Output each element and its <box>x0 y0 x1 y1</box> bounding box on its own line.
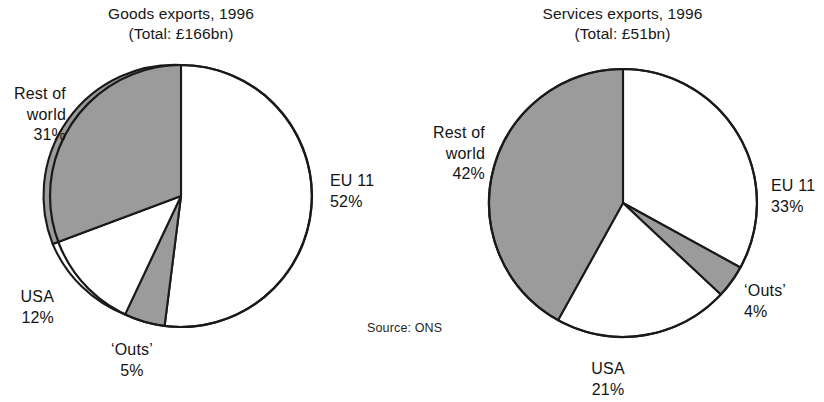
pie-label-goods-rest-of-world-line1: Rest of <box>0 84 66 105</box>
pie-label-services-outs: ‘Outs’ 4% <box>744 281 786 322</box>
pie-label-goods-usa-name: USA <box>0 287 54 308</box>
pie-label-services-rest-of-world-value: 42% <box>419 164 485 185</box>
pie-label-goods-rest-of-world-line2: world <box>0 105 66 126</box>
pie-label-goods-rest-of-world: Rest of world 31% <box>0 84 66 146</box>
pie-label-services-rest-of-world-line1: Rest of <box>419 123 485 144</box>
chart-title-services-line2: (Total: £51bn) <box>475 24 770 44</box>
chart-title-goods-line1: Goods exports, 1996 <box>108 5 254 22</box>
chart-title-services: Services exports, 1996 (Total: £51bn) <box>475 4 770 44</box>
pie-label-services-eu11: EU 11 33% <box>771 176 815 217</box>
pie-label-goods-rest-of-world-value: 31% <box>0 125 66 146</box>
pie-label-services-rest-of-world-line2: world <box>419 144 485 165</box>
pie-label-services-eu11-value: 33% <box>771 197 815 218</box>
pie-label-goods-usa: USA 12% <box>0 287 54 328</box>
pie-label-goods-outs-value: 5% <box>100 361 164 382</box>
pie-label-goods-eu11-name: EU 11 <box>330 171 374 192</box>
pie-label-services-usa-name: USA <box>578 359 638 380</box>
pie-label-services-outs-value: 4% <box>744 302 786 323</box>
exports-pie-figure: Goods exports, 1996 (Total: £166bn) Rest… <box>0 0 824 402</box>
pie-label-goods-eu11-value: 52% <box>330 192 374 213</box>
pie-label-goods-eu11: EU 11 52% <box>330 171 374 212</box>
chart-title-goods: Goods exports, 1996 (Total: £166bn) <box>36 4 326 44</box>
pie-slice-goods-eu11 <box>165 65 312 327</box>
pie-chart-goods <box>45 60 320 335</box>
pie-chart-services <box>484 64 762 342</box>
pie-label-services-outs-name: ‘Outs’ <box>744 281 786 302</box>
source-note: Source: ONS <box>367 321 442 336</box>
pie-label-services-usa: USA 21% <box>578 359 638 400</box>
chart-title-goods-line2: (Total: £166bn) <box>36 24 326 44</box>
pie-label-goods-outs-name: ‘Outs’ <box>100 340 164 361</box>
pie-label-services-eu11-name: EU 11 <box>771 176 815 197</box>
chart-title-services-line1: Services exports, 1996 <box>543 5 703 22</box>
pie-label-goods-outs: ‘Outs’ 5% <box>100 340 164 381</box>
pie-label-goods-usa-value: 12% <box>0 308 54 329</box>
pie-label-services-rest-of-world: Rest of world 42% <box>419 123 485 185</box>
pie-label-services-usa-value: 21% <box>578 380 638 401</box>
